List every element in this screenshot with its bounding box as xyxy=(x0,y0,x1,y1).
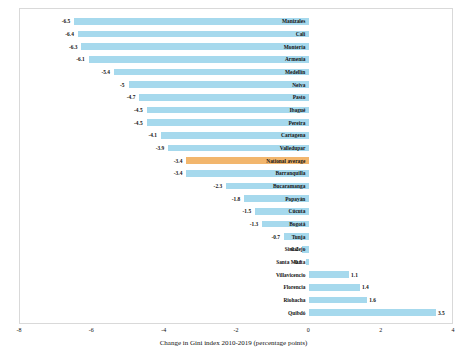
x-axis-tick: 0 xyxy=(307,324,310,336)
bar-rows: -6.5Manizales-6.4Cali-6.3Montería-6.1Arm… xyxy=(20,9,452,323)
x-axis-tick: -2 xyxy=(234,324,239,336)
category-label: Cúcuta xyxy=(289,205,306,217)
x-axis: -8-6-4-2024 xyxy=(19,324,453,338)
category-label: Riohacha xyxy=(283,294,305,306)
category-label: Florencia xyxy=(284,281,306,293)
bar-value-label: -6.3 xyxy=(69,41,78,53)
bar-row: -0.1Santa Marta xyxy=(20,256,452,268)
bar xyxy=(114,69,309,75)
bar xyxy=(309,297,367,303)
category-label: Santa Marta xyxy=(276,256,305,268)
bar xyxy=(78,31,309,37)
bar-row: -6.5Manizales xyxy=(20,15,452,27)
bar-value-label: -2.3 xyxy=(214,180,223,192)
category-label: Barranquilla xyxy=(275,167,305,179)
x-axis-tick: -6 xyxy=(89,324,94,336)
bar-value-label: -3.9 xyxy=(156,142,165,154)
x-axis-tick: 4 xyxy=(452,324,455,336)
bar-row: -3.4National average xyxy=(20,155,452,167)
bar-row: -6.3Montería xyxy=(20,41,452,53)
bar xyxy=(306,259,310,265)
category-label: Montería xyxy=(284,41,306,53)
category-label: Popayán xyxy=(285,193,305,205)
bar-value-label: -4.1 xyxy=(149,129,158,141)
bar-row: -3.4Barranquilla xyxy=(20,167,452,179)
bar-row: -1.3Bogotá xyxy=(20,218,452,230)
bar-value-label: -3.4 xyxy=(174,155,183,167)
bar-row: -4.1Cartagena xyxy=(20,129,452,141)
x-axis-tick: -4 xyxy=(161,324,166,336)
bar xyxy=(89,56,310,62)
category-label: Cali xyxy=(296,28,306,40)
category-label: Manizales xyxy=(282,15,305,27)
bar xyxy=(81,43,309,49)
bar-value-label: -6.1 xyxy=(76,53,85,65)
bar-row: -4.5Pereira xyxy=(20,117,452,129)
category-label: Tunja xyxy=(292,231,306,243)
bar-value-label: -4.7 xyxy=(127,91,136,103)
bar-value-label: -1.5 xyxy=(243,205,252,217)
category-label: National average xyxy=(266,155,305,167)
bar-value-label: -6.5 xyxy=(62,15,71,27)
bar-row: 1.1Villavicencio xyxy=(20,269,452,281)
x-axis-title: Change in Gini index 2010-2019 (percenta… xyxy=(0,338,467,349)
bar-row: -5.4Medellín xyxy=(20,66,452,78)
bar-value-label: 1.1 xyxy=(351,269,358,281)
bar xyxy=(139,94,309,100)
category-label: Neiva xyxy=(292,79,305,91)
bar-value-label: -6.4 xyxy=(65,28,74,40)
bar-row: -4.7Pasto xyxy=(20,91,452,103)
bar-value-label: -5 xyxy=(120,79,125,91)
category-label: Armenia xyxy=(285,53,305,65)
category-label: Bogotá xyxy=(289,218,305,230)
bar-value-label: -5.4 xyxy=(102,66,111,78)
category-label: Ibagué xyxy=(289,104,305,116)
bar-row: -0.7Tunja xyxy=(20,231,452,243)
category-label: Sincelejo xyxy=(285,243,306,255)
bar-row: -1.8Popayán xyxy=(20,193,452,205)
bar xyxy=(309,271,349,277)
category-label: Bucaramanga xyxy=(273,180,305,192)
category-label: Cartagena xyxy=(281,129,305,141)
category-label: Quibdó xyxy=(288,307,305,319)
bar-row: -4.5Ibagué xyxy=(20,104,452,116)
x-axis-tick: -8 xyxy=(17,324,22,336)
bar xyxy=(309,284,360,290)
bar-row: -0.2Sincelejo xyxy=(20,243,452,255)
category-label: Medellín xyxy=(285,66,305,78)
bar-row: 1.6Riohacha xyxy=(20,294,452,306)
bar-row: 1.4Florencia xyxy=(20,281,452,293)
category-label: Pasto xyxy=(293,91,306,103)
bar xyxy=(74,18,309,24)
bar-value-label: -3.4 xyxy=(174,167,183,179)
gini-change-bar-chart: -6.5Manizales-6.4Cali-6.3Montería-6.1Arm… xyxy=(0,0,467,358)
bar-value-label: -1.8 xyxy=(232,193,241,205)
bar-value-label: -1.3 xyxy=(250,218,259,230)
bar xyxy=(309,309,436,315)
bar-value-label: -0.7 xyxy=(271,231,280,243)
bar xyxy=(147,119,310,125)
bar-value-label: -4.5 xyxy=(134,104,143,116)
bar-row: -6.4Cali xyxy=(20,28,452,40)
category-label: Villavicencio xyxy=(276,269,305,281)
bar-row: -5Neiva xyxy=(20,79,452,91)
bar xyxy=(147,107,310,113)
x-axis-tick: 2 xyxy=(379,324,382,336)
bar-value-label: 1.6 xyxy=(369,294,376,306)
bar-value-label: 3.5 xyxy=(438,307,445,319)
plot-area: -6.5Manizales-6.4Cali-6.3Montería-6.1Arm… xyxy=(19,8,453,324)
bar xyxy=(129,81,310,87)
bar-row: -6.1Armenia xyxy=(20,53,452,65)
category-label: Pereira xyxy=(288,117,305,129)
bar-row: -2.3Bucaramanga xyxy=(20,180,452,192)
bar-row: 3.5Quibdó xyxy=(20,307,452,319)
bar-value-label: 1.4 xyxy=(362,281,369,293)
bar-value-label: -4.5 xyxy=(134,117,143,129)
bar-row: -1.5Cúcuta xyxy=(20,205,452,217)
category-label: Valledupar xyxy=(280,142,306,154)
bar-row: -3.9Valledupar xyxy=(20,142,452,154)
